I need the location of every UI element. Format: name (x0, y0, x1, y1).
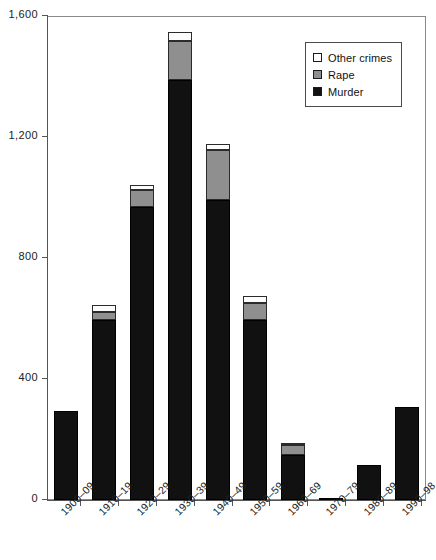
legend-item-other-crimes: Other crimes (313, 49, 392, 66)
bar-segment-other-crimes (206, 144, 230, 150)
bar-segment-other-crimes (92, 305, 116, 312)
y-tick-label: 400 (0, 371, 38, 383)
bar-segment-murder (54, 411, 78, 500)
bar-segment-other-crimes (243, 296, 267, 303)
rape-swatch-icon (313, 70, 322, 79)
bar-1960-69 (281, 16, 305, 500)
bar-segment-murder (168, 80, 192, 500)
legend-label-other-crimes: Other crimes (328, 52, 392, 64)
bar-segment-rape (281, 445, 305, 455)
bar-1920-29 (130, 16, 154, 500)
bar-chart: 04008001,2001,600 1900–091910–191920–291… (0, 0, 436, 560)
bar-segment-other-crimes (130, 185, 154, 190)
bar-segment-murder (92, 320, 116, 500)
bar-1950-59 (243, 16, 267, 500)
murder-swatch-icon (313, 87, 322, 96)
y-tick-label: 1,200 (0, 129, 38, 141)
bar-segment-murder (130, 207, 154, 500)
bar-1910-19 (92, 16, 116, 500)
bar-segment-murder (206, 200, 230, 500)
y-tick-label: 800 (0, 250, 38, 262)
bar-segment-rape (243, 303, 267, 320)
y-tick-label: 0 (0, 492, 38, 504)
other-crimes-swatch-icon (313, 53, 322, 62)
bar-1900-09 (54, 16, 78, 500)
bar-segment-rape (206, 150, 230, 200)
y-tick-label: 1,600 (0, 8, 38, 20)
legend-item-rape: Rape (313, 66, 392, 83)
bar-segment-murder (243, 320, 267, 500)
bar-segment-other-crimes (281, 443, 305, 445)
bar-segment-rape (168, 41, 192, 80)
legend-label-rape: Rape (328, 69, 355, 81)
chart-legend: Other crimes Rape Murder (305, 42, 402, 107)
bar-segment-other-crimes (168, 32, 192, 41)
legend-label-murder: Murder (328, 86, 363, 98)
bar-segment-rape (130, 190, 154, 207)
legend-item-murder: Murder (313, 83, 392, 100)
bar-segment-rape (92, 312, 116, 320)
bar-1940-49 (206, 16, 230, 500)
bar-1930-39 (168, 16, 192, 500)
